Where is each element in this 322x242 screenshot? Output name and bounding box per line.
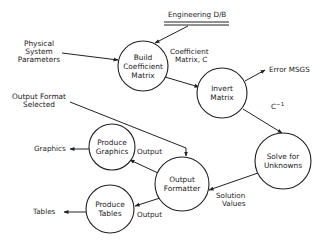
flow-label-tables: Tables [32, 207, 56, 216]
process-solve-for-unknowns: Solve for Unknowns [255, 133, 311, 189]
process-label: Tables [98, 209, 122, 218]
process-label: Invert [211, 84, 233, 93]
process-label: Matrix [131, 71, 155, 80]
process-invert-matrix: Invert Matrix [197, 68, 247, 118]
flow-label-c-inverse: C−1 [271, 101, 284, 111]
flow-formatter-to-graphics [130, 160, 158, 173]
data-store-label: Engineering D/B [168, 10, 226, 19]
flow-db-to-build [155, 26, 188, 43]
input-physical-system-parameters: Physical System Parameters [18, 39, 60, 64]
process-label: Graphics [96, 147, 129, 156]
flow-invert-to-error [245, 70, 265, 81]
input-output-format-selected: Output Format Selected [12, 92, 66, 109]
process-label: Solve for [267, 152, 301, 161]
process-build-coefficient-matrix: Build Coefficient Matrix [118, 41, 168, 91]
process-label: Unknowns [264, 161, 302, 170]
flow-label-error-msgs: Error MSGS [269, 65, 310, 74]
flow-solve-to-formatter [209, 173, 258, 190]
process-output-formatter: Output Formatter [155, 157, 209, 211]
flow-physical-to-build [62, 53, 118, 60]
process-label: Build [134, 53, 153, 62]
input-label: Parameters [18, 55, 60, 64]
process-label: Coefficient [123, 62, 163, 71]
process-label: Matrix [210, 93, 234, 102]
flow-invert-to-solve [243, 109, 282, 133]
flow-label-graphics: Graphics [34, 144, 66, 153]
flow-label-output-tables: Output [137, 210, 162, 219]
input-label: Selected [23, 100, 55, 109]
process-label: Output [169, 175, 195, 184]
process-label: Produce [97, 138, 127, 147]
process-produce-graphics: Produce Graphics [89, 124, 135, 170]
process-label: Produce [95, 200, 125, 209]
flow-label-output-graphics: Output [137, 147, 162, 156]
data-flow-diagram: Engineering D/B Build Coefficient Matrix… [0, 0, 322, 242]
flow-label-values: Values [222, 199, 246, 208]
process-label: Formatter [164, 184, 201, 193]
flow-build-to-invert [165, 77, 199, 87]
data-store-engineering-db: Engineering D/B [164, 10, 229, 25]
process-produce-tables: Produce Tables [86, 185, 134, 233]
flow-label-matrix-c: Matrix, C [175, 55, 207, 64]
flow-formatter-to-tables [135, 198, 160, 206]
